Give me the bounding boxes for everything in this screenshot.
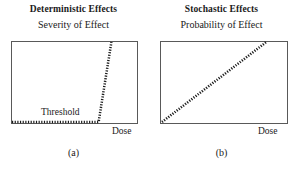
- x-axis-label-dose-stochastic: Dose: [258, 125, 278, 137]
- stochastic-dose-response-curve: [162, 42, 266, 122]
- plot-area-stochastic: [160, 41, 288, 124]
- panel-caption-b: (b): [148, 146, 295, 159]
- panel-title-stochastic: Stochastic Effects: [148, 3, 295, 15]
- panel-title-deterministic: Deterministic Effects: [0, 3, 147, 15]
- panel-deterministic-effects: Deterministic Effects Severity of Effect…: [0, 0, 147, 171]
- stochastic-curve-svg: [161, 42, 287, 123]
- dose-response-figure: Deterministic Effects Severity of Effect…: [0, 0, 295, 171]
- y-axis-label-probability: Probability of Effect: [148, 18, 295, 31]
- threshold-label: Threshold: [41, 106, 80, 118]
- x-axis-label-dose-deterministic: Dose: [112, 125, 132, 137]
- panel-caption-a: (a): [0, 146, 147, 159]
- panel-stochastic-effects: Stochastic Effects Probability of Effect…: [148, 0, 295, 171]
- y-axis-label-severity: Severity of Effect: [0, 18, 147, 31]
